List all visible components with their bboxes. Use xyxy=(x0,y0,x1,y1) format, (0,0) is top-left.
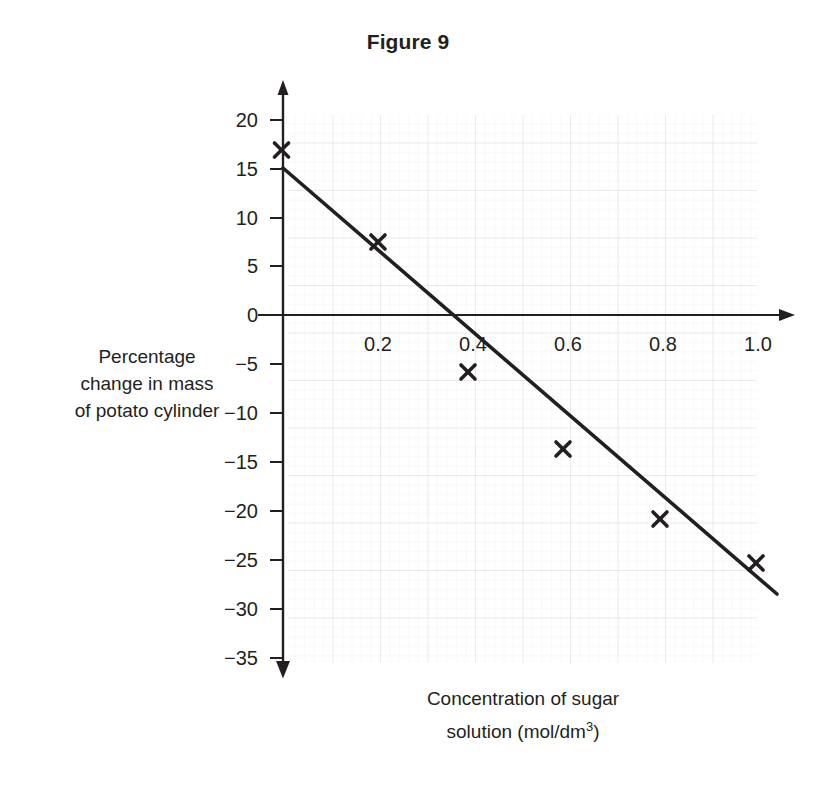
data-point-marker xyxy=(275,143,289,157)
y-tick-label: −30 xyxy=(224,598,258,620)
figure-container: Figure 9 xyxy=(0,0,816,792)
y-tick-label: −20 xyxy=(224,500,258,522)
y-axis-label-line-1: Percentage xyxy=(38,343,256,370)
y-axis-ticks xyxy=(270,120,283,658)
x-tick-label: 0.4 xyxy=(459,333,487,355)
y-tick-label: 5 xyxy=(247,255,258,277)
x-axis-label: Concentration of sugar solution (mol/dm3… xyxy=(288,682,758,748)
y-axis-label-line-2: change in mass xyxy=(38,370,256,397)
y-tick-label: 20 xyxy=(236,109,258,131)
y-axis-label: Percentage change in mass of potato cyli… xyxy=(38,343,256,424)
x-tick-label: 0.6 xyxy=(554,333,582,355)
x-tick-label: 0.8 xyxy=(649,333,677,355)
y-tick-label: 0 xyxy=(247,304,258,326)
y-axis-label-line-3: of potato cylinder xyxy=(38,397,256,424)
y-tick-label: −15 xyxy=(224,451,258,473)
y-tick-label: −25 xyxy=(224,549,258,571)
y-tick-label: −35 xyxy=(224,647,258,669)
y-tick-label: 10 xyxy=(236,207,258,229)
x-tick-label: 0.2 xyxy=(364,333,392,355)
y-tick-label: 15 xyxy=(236,158,258,180)
plot-grid xyxy=(288,115,757,663)
x-axis-label-line-1: Concentration of sugar xyxy=(288,682,758,715)
x-tick-label: 1.0 xyxy=(744,333,772,355)
x-axis-label-line-2: solution (mol/dm3) xyxy=(288,715,758,748)
x-axis-label-units-pre: solution (mol/dm xyxy=(447,721,586,742)
x-axis-label-units-post: ) xyxy=(593,721,599,742)
